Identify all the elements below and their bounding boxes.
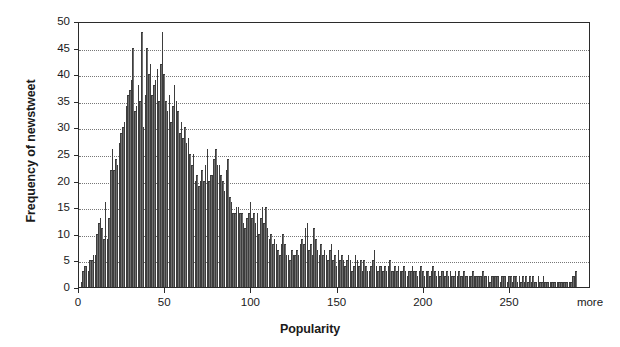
- x-tick-mark: [250, 288, 251, 293]
- y-tick-label: 50: [32, 16, 70, 28]
- x-tick-mark: [337, 288, 338, 293]
- y-axis-title: Frequency of newstweet: [24, 36, 38, 266]
- gridline: [79, 50, 589, 51]
- histogram-figure: Frequency of newstweet 05101520253035404…: [0, 0, 620, 347]
- x-axis-title: Popularity: [0, 322, 620, 336]
- x-tick-label: 200: [393, 297, 453, 309]
- x-tick-mark: [423, 288, 424, 293]
- y-tick-label: 0: [32, 282, 70, 294]
- x-tick-label: 100: [220, 297, 280, 309]
- x-tick-mark: [509, 288, 510, 293]
- x-tick-mark: [164, 288, 165, 293]
- plot-area: [78, 22, 590, 288]
- x-tick-label: 150: [307, 297, 367, 309]
- x-tick-label: 0: [48, 297, 108, 309]
- gridline: [79, 76, 589, 77]
- x-tick-label: more: [560, 297, 620, 309]
- x-tick-mark: [78, 288, 79, 293]
- histogram-bar: [575, 271, 577, 287]
- x-tick-label: 250: [479, 297, 539, 309]
- x-tick-label: 50: [134, 297, 194, 309]
